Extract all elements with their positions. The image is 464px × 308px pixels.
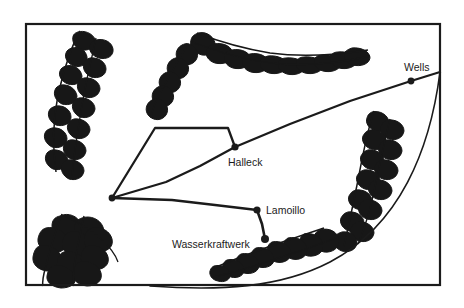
substation-node-lamoillo[interactable] xyxy=(253,206,260,213)
transmission-line-west-lamoillo[interactable] xyxy=(112,198,257,210)
place-label-wells: Wells xyxy=(404,61,429,73)
substation-node-halleck[interactable] xyxy=(231,143,238,150)
place-label-lamoillo: Lamoillo xyxy=(266,204,305,216)
schematic-map-figure: Wells Halleck Lamoillo Wasserkraftwerk xyxy=(0,0,464,308)
place-label-wasserkraftwerk: Wasserkraftwerk xyxy=(172,238,251,250)
mountain-range-east xyxy=(333,111,404,252)
powerplant-node-wasserkraftwerk[interactable] xyxy=(261,235,269,243)
mountain-range-south xyxy=(210,228,339,282)
mountain-range-southwest xyxy=(33,214,118,288)
mountain-range-northwest xyxy=(44,31,113,180)
transmission-line-west-halleck[interactable] xyxy=(112,147,235,198)
transmission-line-lamoillo-wasserkraftwerk[interactable] xyxy=(257,210,265,239)
transmission-line-west-north-loop[interactable] xyxy=(112,128,235,198)
map-canvas: Wells Halleck Lamoillo Wasserkraftwerk xyxy=(0,0,464,308)
substation-node-wells[interactable] xyxy=(408,78,415,85)
place-label-halleck: Halleck xyxy=(228,156,263,168)
junction-node-west[interactable] xyxy=(109,195,116,202)
